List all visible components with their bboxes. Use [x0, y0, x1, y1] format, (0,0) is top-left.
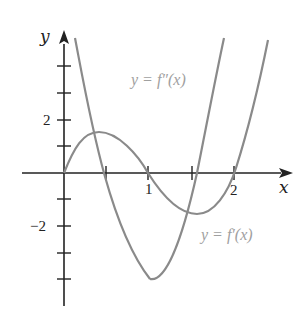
- f-prime-label: y = f′(x): [199, 226, 253, 244]
- y-tick-label-neg2: −2: [30, 218, 46, 234]
- y-tick-label-2: 2: [43, 112, 51, 128]
- f-double-prime-label: y = f″(x): [129, 71, 186, 89]
- derivative-graph: y x 1 2 2 −2 y = f″(x) y = f′(x): [0, 0, 301, 325]
- x-tick-label-1: 1: [145, 181, 153, 197]
- x-tick-label-2: 2: [230, 182, 238, 198]
- y-axis-label: y: [39, 26, 50, 46]
- y-axis-arrow-icon: [59, 30, 69, 44]
- x-axis-label: x: [279, 177, 289, 197]
